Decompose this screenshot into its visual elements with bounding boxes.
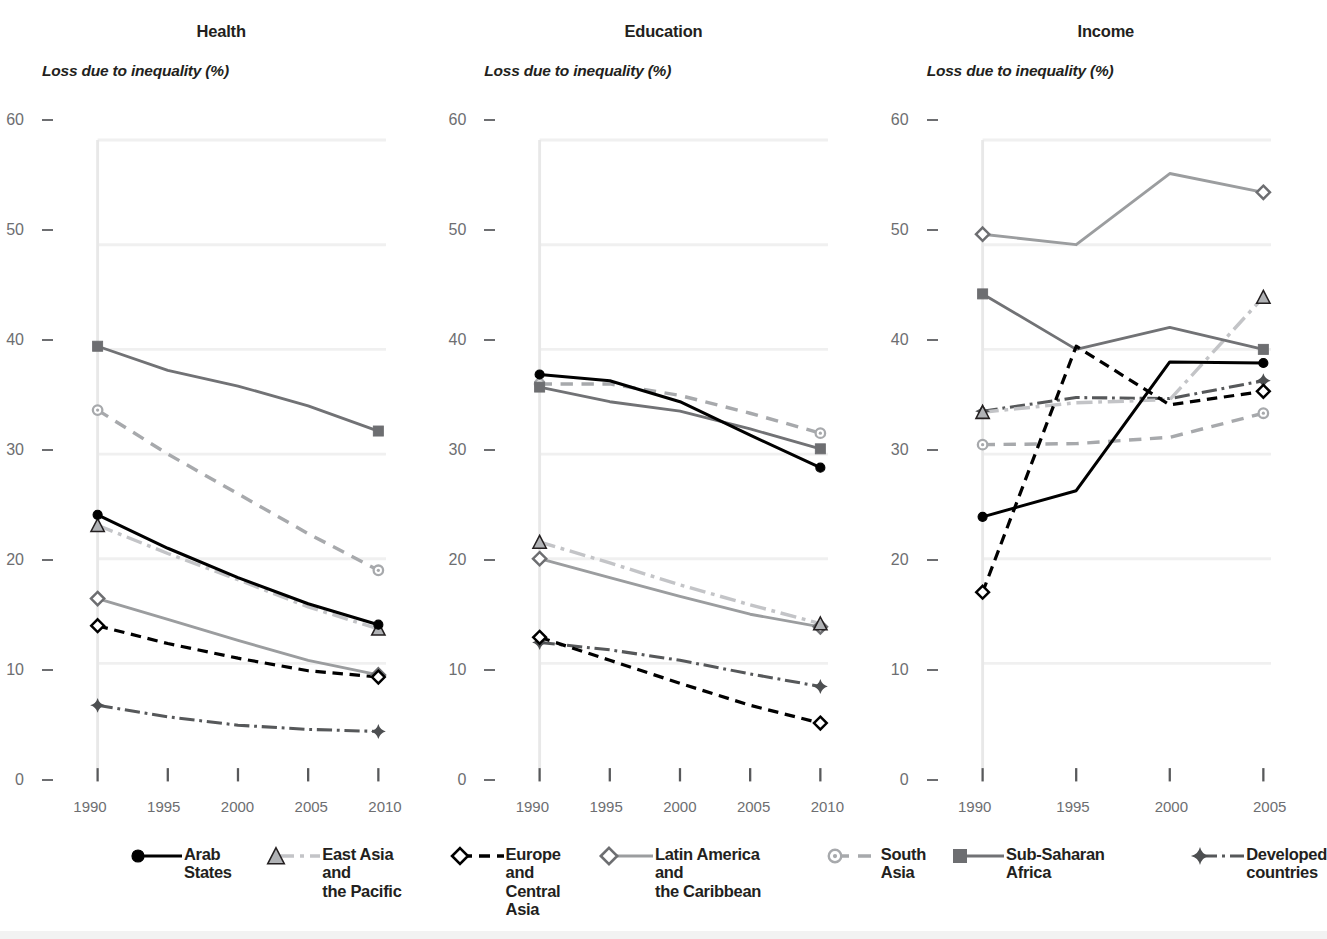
series-marker: Latin America and the Caribbean [976,228,989,241]
legend-row: Arab States East Asia and the Pacific Eu… [0,842,1327,914]
legend-label: South Asia [881,842,942,882]
y-tick-mark [927,229,938,231]
legend-label: Arab States [184,842,250,882]
y-tick-mark [484,229,495,231]
legend-marker-dotcircle-icon [823,843,881,869]
y-tick-label: 60 [875,111,909,129]
plot-area: 0102030405060 1990199520002005 Developed… [927,110,1277,780]
panel-education: Education Loss due to inequality (%) 010… [442,0,884,835]
series-marker: Latin America and the Caribbean [533,552,546,565]
legend-marker-triangle-icon [264,843,322,869]
y-tick-mark [42,119,53,121]
y-tick-label: 10 [432,661,466,679]
series-marker: Developed countries [90,698,105,713]
legend-marker-circle-icon [126,843,184,869]
y-tick-mark [484,449,495,451]
y-tick-label: 30 [0,441,24,459]
series-marker: Arab States [1258,358,1267,367]
series-line: Sub-Saharan Africa [540,387,821,449]
legend-swatch-svg [264,843,322,869]
y-tick-label: 20 [875,551,909,569]
y-tick-mark [484,339,495,341]
y-tick-mark [42,559,53,561]
series-marker: South Asia [978,440,988,450]
series-marker: East Asia and the Pacific [91,519,104,532]
y-tick-mark [927,119,938,121]
y-tick-mark [484,119,495,121]
series-marker: Arab States [374,620,383,629]
panel-title: Income [885,22,1327,41]
legend-item[interactable]: Europe and Central Asia [448,842,575,919]
panel-title: Education [442,22,884,41]
legend-marker-square-icon [948,843,1006,869]
series-marker: Arab States [93,510,102,519]
legend-swatch-svg [823,843,881,869]
footer-divider [0,931,1327,939]
series-line: South Asia [982,413,1263,444]
chart-legend: Arab States East Asia and the Pacific Eu… [0,836,1327,939]
series-marker: South Asia [1258,408,1268,418]
series-line: Europe and Central Asia [98,626,379,677]
legend-item[interactable]: Arab States [126,842,250,882]
series-marker: Europe and Central Asia [91,619,104,632]
series-marker: Sub-Saharan Africa [816,444,826,454]
series-marker: South Asia [93,405,103,415]
y-axis-caption: Loss due to inequality (%) [927,62,1114,80]
series-marker: Sub-Saharan Africa [93,341,103,351]
panel-health: Health Loss due to inequality (%) 010203… [0,0,442,835]
legend-item[interactable]: South Asia [823,842,942,882]
series-line: Sub-Saharan Africa [98,346,379,431]
series-marker: East Asia and the Pacific [1256,290,1269,303]
series-marker: Europe and Central Asia [1257,385,1270,398]
y-tick-mark [42,339,53,341]
y-tick-label: 40 [875,331,909,349]
y-tick-mark [927,559,938,561]
series-line: Arab States [98,515,379,625]
y-tick-label: 50 [0,221,24,239]
y-tick-mark [927,779,938,781]
y-tick-mark [927,339,938,341]
legend-swatch-svg [597,843,655,869]
legend-label: Sub-Saharan Africa [1006,842,1122,882]
legend-label: Europe and Central Asia [506,842,575,919]
series-marker: Europe and Central Asia [976,586,989,599]
y-tick-label: 60 [432,111,466,129]
series-line: East Asia and the Pacific [540,542,821,624]
series-line: Latin America and the Caribbean [540,559,821,627]
legend-swatch-svg [948,843,1006,869]
series-line: Arab States [982,362,1263,517]
y-tick-mark [42,779,53,781]
y-axis-caption: Loss due to inequality (%) [484,62,671,80]
y-tick-mark [927,669,938,671]
y-tick-label: 60 [0,111,24,129]
y-tick-label: 40 [0,331,24,349]
legend-item[interactable]: East Asia and the Pacific [264,842,401,900]
legend-label: Latin America and the Caribbean [655,842,763,900]
y-tick-label: 0 [432,771,466,789]
legend-label: East Asia and the Pacific [322,842,401,900]
series-line: South Asia [540,384,821,433]
y-tick-label: 0 [875,771,909,789]
series-marker: South Asia [816,428,826,438]
legend-item[interactable]: Sub-Saharan Africa [948,842,1122,882]
plot-area: 0102030405060 19901995200020052010 Devel… [42,110,392,780]
y-axis-caption: Loss due to inequality (%) [42,62,229,80]
legend-swatch-svg [448,843,506,869]
legend-swatch-svg [1188,843,1246,869]
plot-area: 0102030405060 19901995200020052010 Devel… [484,110,834,780]
legend-item[interactable]: Latin America and the Caribbean [597,842,763,900]
series-line: Developed countries [98,705,379,731]
legend-item[interactable]: Developed countries [1188,842,1327,882]
series-marker: Sub-Saharan Africa [535,382,545,392]
y-tick-mark [42,449,53,451]
legend-swatch-svg [126,843,184,869]
series-line: Europe and Central Asia [982,346,1263,592]
y-tick-label: 50 [875,221,909,239]
series-marker: Arab States [816,463,825,472]
chart-svg: Developed countriesSouth AsiaLatin Ameri… [90,120,405,830]
chart-svg: Developed countriesSouth AsiaLatin Ameri… [532,120,847,830]
legend-marker-plus-icon [1188,843,1246,869]
y-tick-label: 10 [0,661,24,679]
panel-container: Health Loss due to inequality (%) 010203… [0,0,1327,835]
y-tick-mark [927,449,938,451]
